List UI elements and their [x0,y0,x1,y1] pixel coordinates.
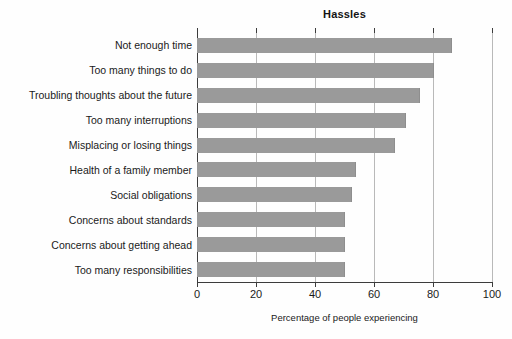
bar-row [197,63,492,78]
gridline-100 [492,33,493,282]
bar-row [197,113,492,128]
category-label: Not enough time [2,39,192,51]
tick-top-40 [315,28,316,33]
x-axis-label: Percentage of people experiencing [197,312,492,323]
tick-top-60 [374,28,375,33]
tick-top-0 [197,28,198,33]
x-tick-label: 40 [295,288,335,300]
bar-row [197,38,492,53]
chart-title: Hassles [197,8,492,20]
y-axis-tick-labels: Not enough timeToo many things to doTrou… [0,33,192,282]
category-label: Troubling thoughts about the future [2,89,192,101]
category-label: Too many responsibilities [2,264,192,276]
x-tick-label: 80 [413,288,453,300]
tick-bottom-80 [433,282,434,287]
plot-area [197,33,492,282]
bar [197,212,345,227]
category-label: Too many interruptions [2,114,192,126]
bar-row [197,237,492,252]
category-label: Misplacing or losing things [2,139,192,151]
tick-top-80 [433,28,434,33]
bar-row [197,187,492,202]
category-label: Too many things to do [2,64,192,76]
x-axis-line [197,282,493,283]
tick-bottom-100 [492,282,493,287]
bar [197,138,395,153]
category-label: Social obligations [2,189,192,201]
category-label: Concerns about standards [2,214,192,226]
bar [197,88,420,103]
bar-row [197,138,492,153]
tick-bottom-60 [374,282,375,287]
bar-row [197,88,492,103]
x-tick-label: 100 [472,288,512,300]
tick-bottom-0 [197,282,198,287]
tick-top-100 [492,28,493,33]
bar [197,237,345,252]
bar [197,63,434,78]
bar [197,262,345,277]
bar [197,187,352,202]
x-tick-label: 0 [177,288,217,300]
bar-row [197,212,492,227]
tick-bottom-40 [315,282,316,287]
tick-bottom-20 [256,282,257,287]
chart-figure: Hassles Not enough timeToo many things t… [0,0,512,339]
bar-row [197,262,492,277]
category-label: Concerns about getting ahead [2,239,192,251]
bar [197,113,406,128]
x-tick-label: 20 [236,288,276,300]
tick-top-20 [256,28,257,33]
bar [197,162,356,177]
bar-row [197,162,492,177]
category-label: Health of a family member [2,164,192,176]
x-tick-label: 60 [354,288,394,300]
bar [197,38,452,53]
